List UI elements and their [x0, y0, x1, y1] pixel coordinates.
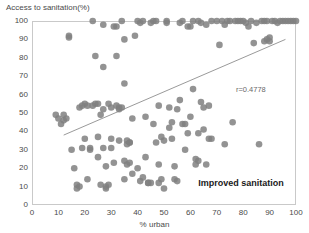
y-tick-label: 30	[2, 146, 28, 154]
x-tick-label: 30	[97, 209, 125, 217]
x-tick-label: 90	[256, 209, 284, 217]
x-tick-label: 70	[203, 209, 231, 217]
scatter-chart-figure: Access to sanitation(%) 0102030405060708…	[0, 0, 309, 233]
y-tick-label: 0	[2, 201, 28, 209]
series-label-annotation: Improved sanitation	[198, 178, 284, 188]
x-tick-label: 100	[282, 209, 309, 217]
x-tick-label: 0	[18, 209, 46, 217]
y-tick-label: 60	[2, 91, 28, 99]
y-tick-label: 10	[2, 183, 28, 191]
x-tick-label: 40	[124, 209, 152, 217]
x-tick-label: 20	[71, 209, 99, 217]
y-tick-label: 100	[2, 17, 28, 25]
y-tick-label: 20	[2, 164, 28, 172]
y-tick-label: 50	[2, 109, 28, 117]
y-tick-label: 40	[2, 127, 28, 135]
y-axis-title: Access to sanitation(%)	[6, 3, 90, 12]
y-tick-label: 90	[2, 35, 28, 43]
y-tick-label: 70	[2, 72, 28, 80]
x-tick-label: 50	[150, 209, 178, 217]
x-tick-label: 60	[176, 209, 204, 217]
x-tick-label: 10	[44, 209, 72, 217]
x-axis-title: % urban	[0, 220, 309, 229]
y-tick-label: 80	[2, 54, 28, 62]
correlation-annotation: r=0.4778	[236, 85, 266, 94]
x-tick-label: 80	[229, 209, 257, 217]
